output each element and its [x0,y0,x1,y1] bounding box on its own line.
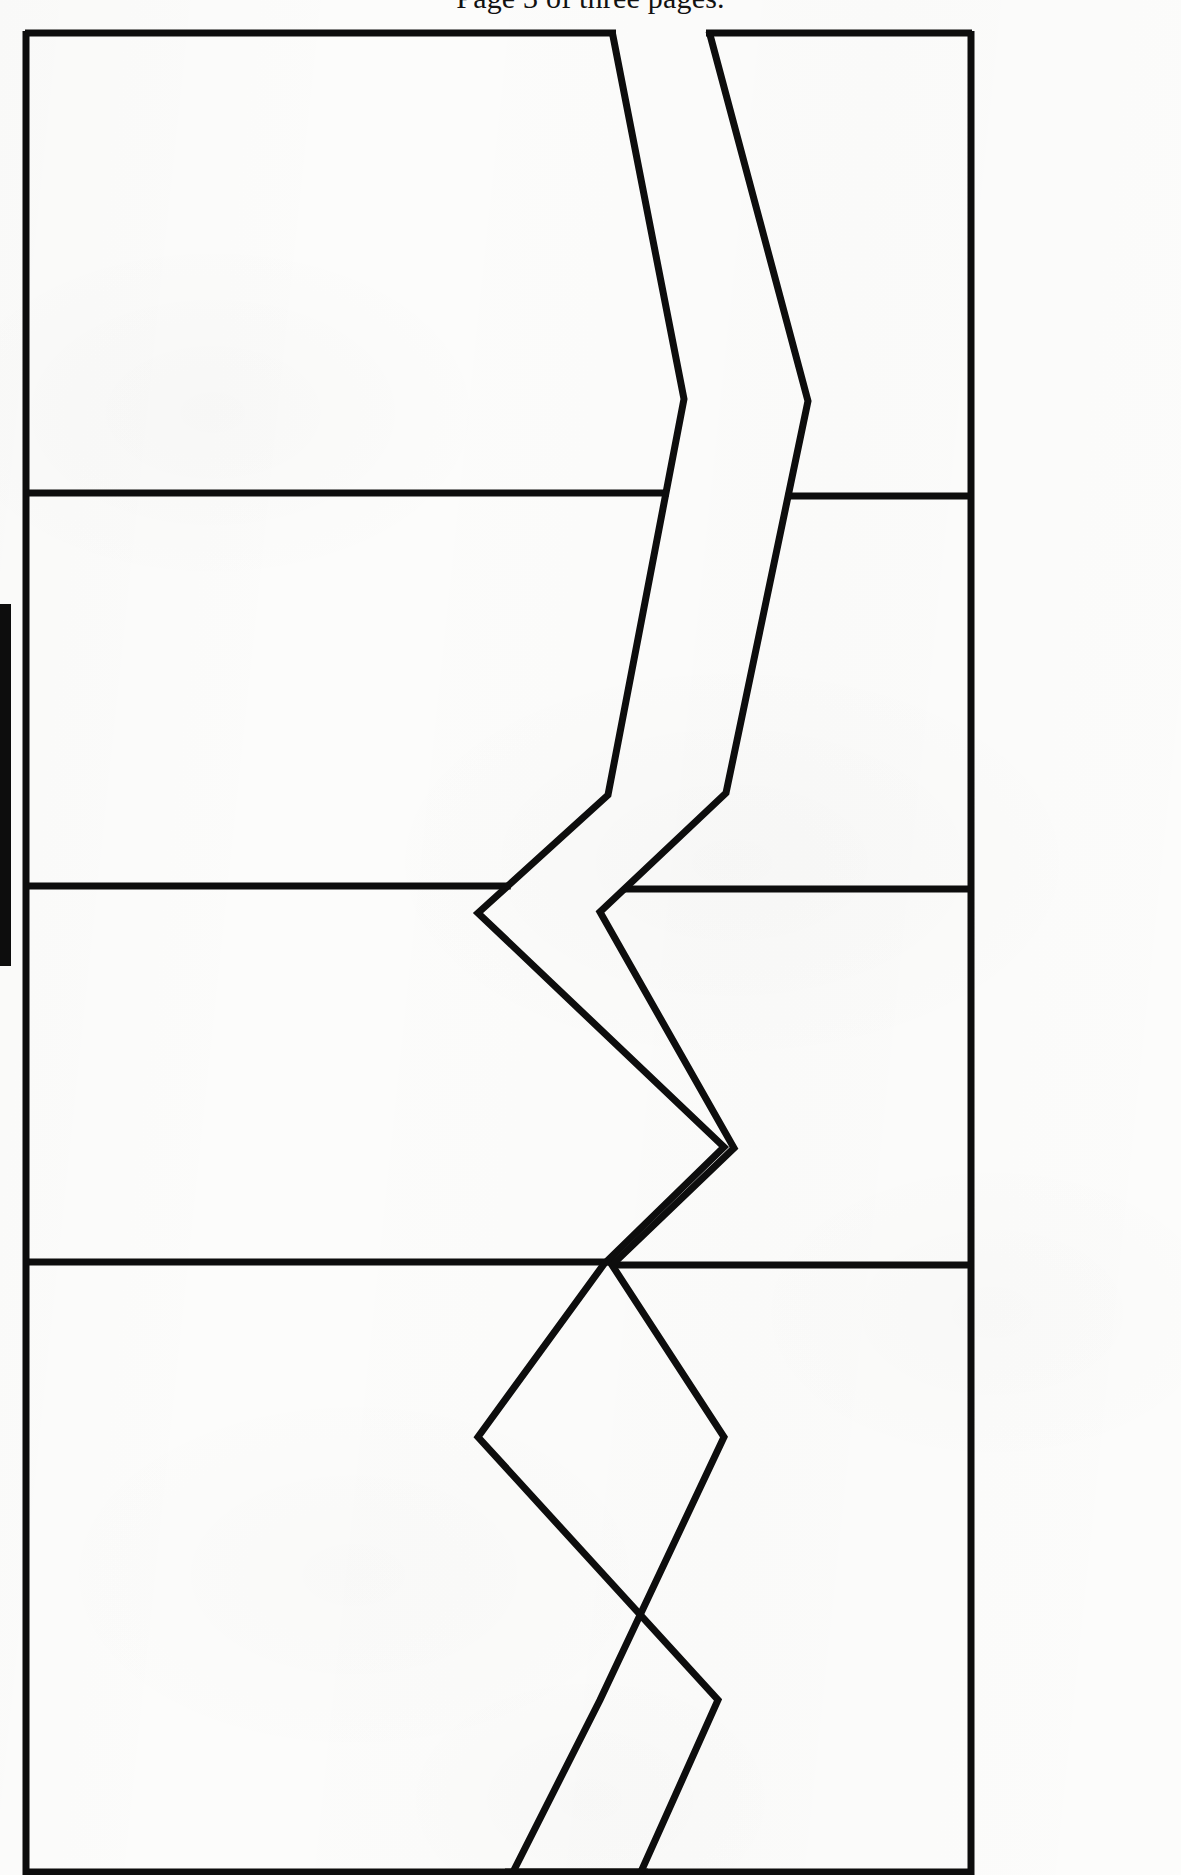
figure-ink [25,31,972,1875]
page-caption: Page 3 of three pages. [0,0,1181,15]
zigzag-left-edge [478,31,724,1874]
scanned-page: Page 3 of three pages. [0,0,1181,1875]
zigzag-right-edge [512,31,808,1874]
left-margin-scan-mark [0,604,11,966]
technical-figure [0,0,1181,1875]
